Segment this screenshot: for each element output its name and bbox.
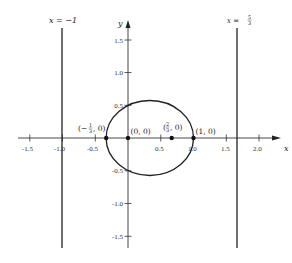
point-origin (126, 136, 130, 140)
fraction-denominator: 3 (166, 127, 169, 133)
point-label-one: (1, 0) (196, 127, 216, 136)
fraction-numerator: 2 (166, 121, 169, 127)
y-tick-label: -0.5 (112, 167, 124, 175)
fraction-denominator: 3 (248, 20, 251, 26)
x-tick-label: -1.5 (22, 145, 34, 153)
point-label-two-thirds: ( 2 3 , 0) (163, 121, 183, 134)
vertical-line-x-5-3: x = 5 3 (227, 14, 252, 249)
x-axis-label: x (284, 144, 289, 153)
fraction-denominator: 3 (89, 128, 92, 134)
x-axis-arrow-icon (272, 136, 281, 141)
vertical-line-label: x = −1 (49, 16, 77, 25)
x-tick-label: -0.5 (87, 145, 99, 153)
y-tick-label: 1.0 (114, 69, 123, 77)
vertical-line-label-prefix: x = (227, 17, 239, 25)
x-tick-label: -1.0 (54, 145, 66, 153)
x-tick-label: 2.0 (253, 145, 262, 153)
y-axis-arrow-icon (126, 20, 131, 28)
x-tick-label: 1.5 (221, 145, 230, 153)
point-label-neg-one-third: (− 1 3 , 0) (78, 122, 106, 135)
point-neg-one-third (104, 136, 108, 140)
y-tick-label: 1.5 (114, 37, 123, 45)
point-label-suffix: , 0) (170, 123, 183, 132)
point-two-thirds (170, 136, 174, 140)
x-tick-label: 0.5 (155, 145, 164, 153)
y-axis-label: y (117, 19, 123, 28)
y-axis: y (117, 19, 131, 248)
point-label-origin: (0, 0) (131, 127, 151, 136)
y-tick-labels: 1.5 1.0 0.5 -0.5 -1.0 -1.5 (112, 37, 124, 242)
vertical-line-x-neg1: x = −1 (49, 16, 77, 248)
point-label-prefix: (− (78, 124, 87, 133)
point-one (191, 136, 195, 140)
point-label-suffix: , 0) (93, 124, 106, 133)
x-tick-labels: -1.5 -1.0 -0.5 0.5 1.0 1.5 2.0 (22, 145, 262, 153)
graph-canvas: x y -1.5 -1.0 -0.5 0.5 1.0 1.5 2.0 1.5 1… (0, 0, 292, 263)
y-tick-label: -1.5 (112, 233, 124, 241)
fraction-numerator: 5 (248, 14, 251, 20)
fraction-numerator: 1 (89, 122, 92, 128)
y-tick-label: -1.0 (112, 200, 124, 208)
